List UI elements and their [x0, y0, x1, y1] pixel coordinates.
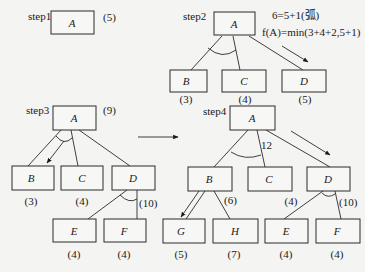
selection-arrow-icon	[47, 141, 64, 163]
step3-group: step3 (9) A B (3) C (4) D (10)	[12, 104, 158, 261]
step3-root-cost: (9)	[103, 104, 116, 117]
step4-node-f-cost: (4)	[331, 248, 344, 261]
step2-node-b: B	[170, 70, 207, 92]
step4-node-e-cost: (4)	[280, 248, 293, 261]
node-label: E	[282, 225, 290, 237]
step4-node-h-cost: (7)	[228, 248, 241, 261]
step3-node-e-cost: (4)	[68, 248, 81, 261]
step4-node-b-cost: (6)	[224, 194, 237, 207]
step4-node-e: E	[265, 219, 308, 243]
step4-node-d: D	[307, 167, 350, 191]
node-label: E	[70, 225, 78, 237]
edge-a-b	[214, 130, 248, 167]
step3-label: step3	[26, 104, 50, 116]
and-arc-icon	[231, 152, 261, 157]
step3-node-d-cost: (10)	[139, 197, 158, 210]
step1-node-a-cost: (5)	[103, 11, 116, 24]
step2-label: step2	[183, 10, 206, 22]
step4-node-g-cost: (5)	[175, 248, 188, 261]
step3-node-e: E	[53, 219, 96, 242]
step4-node-c-cost: (4)	[285, 195, 298, 208]
step4-label: step4	[203, 105, 227, 117]
node-label: B	[206, 173, 213, 185]
edge-a-d	[249, 36, 303, 70]
step3-node-f: F	[104, 219, 146, 242]
and-arc-icon	[56, 136, 72, 142]
edge-d-e	[88, 190, 127, 219]
node-label: D	[128, 172, 137, 184]
step4-group: step4 12 A B (6) C (4) D (10)	[163, 105, 360, 261]
step3-node-a: A	[53, 106, 96, 130]
node-label: C	[265, 173, 273, 185]
step3-node-c: C	[61, 166, 103, 190]
selection-arrow-icon	[291, 131, 330, 155]
step1-label: step1	[28, 10, 51, 22]
step4-edge-label: 12	[261, 139, 272, 151]
node-label: D	[299, 75, 308, 87]
step4-node-g: G	[163, 219, 205, 243]
step3-node-d: D	[112, 166, 155, 190]
step4-node-f: F	[316, 219, 360, 243]
step3-node-c-cost: (4)	[76, 195, 89, 208]
node-label: C	[78, 172, 86, 184]
node-label: A	[248, 112, 256, 124]
step2-annotation-line1: 6=5+1(弧)	[272, 8, 320, 22]
step4-node-d-cost: (10)	[339, 196, 358, 209]
node-label: H	[230, 225, 240, 237]
step3-node-b-cost: (3)	[25, 195, 38, 208]
step2-group: step2 6=5+1(弧) f(A)=min(3+4+2,5+1) A B (…	[170, 8, 361, 106]
edge-a-b	[191, 36, 222, 70]
step3-node-b: B	[12, 166, 54, 190]
step2-node-d-cost: (5)	[299, 93, 312, 106]
node-label: D	[323, 173, 332, 185]
step1-node-a: A	[51, 11, 94, 34]
step3-node-f-cost: (4)	[118, 248, 131, 261]
node-label: A	[68, 17, 76, 29]
step2-node-a: A	[214, 12, 255, 35]
step4-node-a: A	[230, 106, 275, 130]
step4-node-h: H	[213, 219, 258, 243]
node-label: B	[183, 75, 190, 87]
node-label: G	[177, 225, 185, 237]
node-label: C	[240, 75, 248, 87]
and-arc-icon	[208, 48, 236, 55]
node-label: F	[333, 225, 341, 237]
node-label: A	[230, 18, 238, 30]
step4-node-c: C	[248, 167, 292, 191]
step2-node-d: D	[282, 70, 326, 92]
edge-a-b	[28, 130, 61, 166]
node-label: B	[28, 172, 35, 184]
step4-node-b: B	[188, 167, 232, 191]
edge-a-d	[79, 130, 130, 166]
node-label: A	[70, 112, 78, 124]
edge-a-c	[233, 36, 240, 70]
and-arc-icon	[322, 193, 335, 196]
and-arc-icon	[120, 195, 137, 201]
node-label: F	[120, 225, 128, 237]
step2-node-b-cost: (3)	[180, 93, 193, 106]
step2-node-c: C	[222, 70, 266, 92]
ao-star-search-diagram: step1 A (5) step2 6=5+1(弧) f(A)=min(3+4+…	[0, 0, 365, 272]
step1-group: step1 A (5)	[28, 10, 116, 34]
step2-node-c-cost: (4)	[239, 93, 252, 106]
edge-a-c	[71, 130, 78, 166]
step2-annotation-line2: f(A)=min(3+4+2,5+1)	[262, 26, 361, 39]
